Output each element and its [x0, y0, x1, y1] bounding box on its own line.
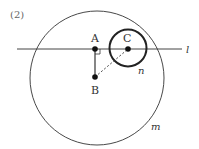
label-m: m: [151, 121, 160, 132]
label-l: l: [186, 44, 189, 55]
label-a: A: [90, 32, 100, 45]
problem-number: (2): [10, 9, 24, 20]
point-c: [125, 46, 131, 52]
geometry-diagram: (2) A B C n m l: [0, 0, 199, 149]
point-b: [92, 74, 98, 80]
point-a: [92, 46, 98, 52]
label-n: n: [138, 65, 144, 76]
label-b: B: [91, 84, 99, 97]
label-c: C: [123, 32, 131, 45]
